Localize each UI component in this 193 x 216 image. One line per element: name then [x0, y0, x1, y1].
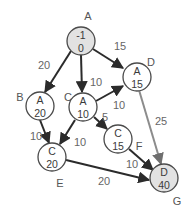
node-d-dist: 15: [131, 78, 143, 90]
node-e: C 20: [38, 143, 66, 171]
weight-d-g: 25: [155, 115, 167, 127]
weight-c-f: 5: [102, 111, 108, 123]
weight-c-e: 10: [74, 136, 86, 148]
node-g-dist: 40: [158, 179, 170, 191]
label-d: D: [147, 56, 155, 68]
node-f-pred: C: [114, 127, 122, 139]
label-c: C: [64, 91, 72, 103]
graph-diagram: 15 20 10 10 25 5 10 10 10 20 -1 0 A 15 A…: [0, 0, 193, 216]
node-b-pred: A: [36, 94, 43, 106]
weight-b-e: 10: [30, 130, 42, 142]
edge-a-b: [45, 51, 71, 92]
edge-a-c: [81, 55, 82, 92]
node-a-dist: 0: [78, 42, 84, 54]
label-f: F: [136, 140, 143, 152]
node-c-pred: A: [79, 95, 86, 107]
node-e-pred: C: [48, 145, 56, 157]
node-f-dist: 15: [112, 140, 124, 152]
edge-c-e: [60, 120, 75, 144]
node-a: -1 0: [67, 27, 95, 55]
node-e-dist: 20: [46, 158, 58, 170]
label-e: E: [56, 177, 63, 189]
node-g-pred: D: [160, 166, 168, 178]
node-b: A 20: [26, 92, 54, 120]
node-g: D 40: [150, 164, 178, 192]
node-b-dist: 20: [34, 107, 46, 119]
weight-f-g: 10: [126, 158, 138, 170]
label-b: B: [16, 91, 23, 103]
label-a: A: [84, 10, 92, 22]
weight-a-c: 10: [90, 76, 102, 88]
weight-a-b: 20: [38, 59, 50, 71]
node-c: A 10: [69, 93, 97, 121]
edge-d-g: [139, 90, 161, 164]
node-f: C 15: [104, 125, 132, 153]
weight-c-d: 10: [113, 99, 125, 111]
label-g: G: [173, 195, 182, 207]
node-a-pred: -1: [76, 29, 85, 41]
node-d-pred: A: [133, 65, 140, 77]
weight-a-d: 15: [114, 40, 126, 52]
weight-e-g: 20: [98, 175, 110, 187]
node-c-dist: 10: [77, 108, 89, 120]
